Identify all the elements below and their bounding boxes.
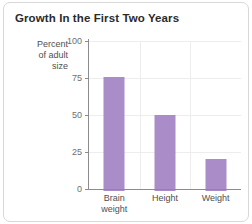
chart-card: Growth In the First Two Years Percent of… (3, 2, 249, 222)
y-axis-title: Percent of adult size (10, 39, 68, 72)
page-title: Growth In the First Two Years (15, 12, 179, 24)
y-tick-label: 50 (72, 110, 82, 120)
y-tick-label: 100 (67, 36, 82, 46)
plot-area: 0255075100 Brain weightHeightWeight (89, 41, 241, 189)
x-axis-labels: Brain weightHeightWeight (89, 41, 241, 189)
x-axis-category-label: Height (152, 193, 178, 204)
y-tick-label: 25 (72, 147, 82, 157)
x-axis-line (88, 189, 241, 190)
y-tick-label: 0 (77, 184, 82, 194)
x-axis-category-label: Weight (202, 193, 230, 204)
x-axis-category-label: Brain weight (101, 193, 127, 214)
y-tick-label: 75 (72, 73, 82, 83)
